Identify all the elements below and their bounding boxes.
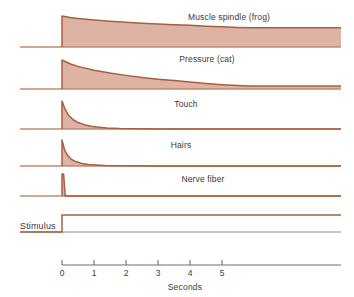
- stimulus-label: Stimulus: [20, 221, 56, 231]
- trace-label: Nerve fiber: [181, 174, 224, 184]
- x-axis-tick-label: 5: [220, 268, 225, 278]
- x-axis-tick-label: 0: [60, 268, 65, 278]
- receptor-adaptation-chart: Muscle spindle (frog)Pressure (cat)Touch…: [0, 0, 354, 297]
- x-axis-tick-label: 3: [156, 268, 161, 278]
- trace-label: Muscle spindle (frog): [188, 12, 270, 22]
- x-axis-tick-label: 1: [92, 268, 97, 278]
- x-axis-tick-label: 4: [188, 268, 193, 278]
- x-axis-tick-label: 2: [124, 268, 129, 278]
- x-axis-title: Seconds: [168, 282, 202, 292]
- trace-label: Touch: [174, 99, 198, 109]
- trace-label: Pressure (cat): [179, 54, 234, 64]
- trace-label: Hairs: [171, 140, 192, 150]
